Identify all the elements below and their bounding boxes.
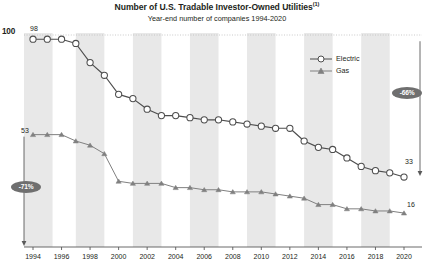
x-tick-label-2010: 2010 bbox=[247, 253, 275, 260]
x-tick-label-1998: 1998 bbox=[76, 253, 104, 260]
data-point-marker bbox=[230, 119, 236, 125]
electric-start-value-label: 98 bbox=[30, 25, 38, 32]
data-point-marker bbox=[144, 106, 150, 112]
data-point-marker bbox=[330, 146, 336, 152]
filled-triangle-marker-icon bbox=[310, 66, 332, 76]
legend-item-gas: Gas bbox=[310, 65, 360, 77]
electric-end-value-label: 33 bbox=[405, 158, 413, 165]
open-circle-marker-icon bbox=[310, 54, 332, 64]
chart-legend: Electric Gas bbox=[310, 53, 360, 77]
data-point-marker bbox=[258, 123, 264, 129]
data-point-marker bbox=[401, 174, 407, 180]
vertical-band bbox=[24, 33, 53, 247]
x-tick-label-1994: 1994 bbox=[19, 253, 47, 260]
electric-change-badge: -66% bbox=[392, 87, 422, 99]
data-point-marker bbox=[158, 112, 164, 118]
data-point-marker bbox=[215, 117, 221, 123]
vertical-band bbox=[190, 33, 219, 247]
y-axis-max-label: 100 bbox=[2, 27, 15, 36]
data-point-marker bbox=[44, 36, 50, 42]
data-point-marker bbox=[344, 155, 350, 161]
data-point-marker bbox=[101, 72, 107, 78]
x-tick-label-2008: 2008 bbox=[219, 253, 247, 260]
legend-label-electric: Electric bbox=[336, 53, 360, 65]
gas-change-badge: -71% bbox=[11, 181, 41, 193]
vertical-band bbox=[361, 33, 390, 247]
line-chart-plot bbox=[0, 0, 434, 274]
data-point-marker bbox=[387, 170, 393, 176]
data-point-marker bbox=[116, 91, 122, 97]
data-point-marker bbox=[244, 121, 250, 127]
data-point-marker bbox=[58, 36, 64, 42]
x-tick-label-1996: 1996 bbox=[48, 253, 76, 260]
gas-end-value-label: 16 bbox=[407, 201, 415, 208]
data-point-marker bbox=[287, 125, 293, 131]
x-tick-label-2002: 2002 bbox=[133, 253, 161, 260]
data-point-marker bbox=[87, 59, 93, 65]
data-point-marker bbox=[358, 163, 364, 169]
vertical-band bbox=[133, 33, 162, 247]
data-point-marker bbox=[130, 96, 136, 102]
x-tick-label-2004: 2004 bbox=[162, 253, 190, 260]
x-tick-label-2006: 2006 bbox=[190, 253, 218, 260]
x-tick-label-2020: 2020 bbox=[390, 253, 418, 260]
data-point-marker bbox=[173, 112, 179, 118]
data-point-marker bbox=[30, 36, 36, 42]
data-point-marker bbox=[187, 115, 193, 121]
vertical-band bbox=[247, 33, 276, 247]
legend-label-gas: Gas bbox=[336, 65, 349, 77]
data-point-marker bbox=[272, 125, 278, 131]
legend-item-electric: Electric bbox=[310, 53, 360, 65]
electric-change-arrow bbox=[418, 41, 423, 176]
x-tick-label-2012: 2012 bbox=[276, 253, 304, 260]
data-point-marker bbox=[315, 144, 321, 150]
data-point-marker bbox=[301, 138, 307, 144]
x-tick-label-2014: 2014 bbox=[304, 253, 332, 260]
data-point-marker bbox=[372, 168, 378, 174]
x-tick-label-2018: 2018 bbox=[362, 253, 390, 260]
x-tick-label-2016: 2016 bbox=[333, 253, 361, 260]
gas-start-value-label: 53 bbox=[21, 127, 29, 134]
data-point-marker bbox=[201, 117, 207, 123]
data-point-marker bbox=[73, 40, 79, 46]
chart-container: Number of U.S. Tradable Investor-Owned U… bbox=[0, 0, 434, 274]
x-tick-label-2000: 2000 bbox=[105, 253, 133, 260]
